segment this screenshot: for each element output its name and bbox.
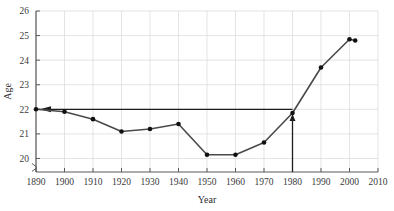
data-point-marker bbox=[62, 109, 67, 114]
x-axis-tick-label-1920: 1920 bbox=[112, 177, 131, 187]
y-axis-tick-label-20: 20 bbox=[20, 154, 30, 164]
x-axis-tick-labels: 1890190019101920193019401950196019701980… bbox=[27, 177, 388, 187]
data-point-marker bbox=[34, 107, 39, 112]
x-axis-tick-label-1950: 1950 bbox=[198, 177, 217, 187]
chart-container: 20212223242526 1890190019101920193019401… bbox=[0, 0, 394, 211]
x-axis-tick-label-1970: 1970 bbox=[255, 177, 274, 187]
y-axis-tick-label-22: 22 bbox=[20, 105, 30, 115]
chart-annotations bbox=[36, 106, 296, 172]
x-axis-tick-label-2000: 2000 bbox=[340, 177, 359, 187]
y-axis-tick-label-21: 21 bbox=[20, 129, 30, 139]
data-point-marker bbox=[233, 152, 238, 157]
line-chart: 20212223242526 1890190019101920193019401… bbox=[0, 0, 394, 211]
y-axis-tick-label-23: 23 bbox=[20, 80, 30, 90]
x-axis-tick-label-1890: 1890 bbox=[27, 177, 46, 187]
data-point-marker bbox=[353, 38, 358, 43]
x-axis-tick-label-2010: 2010 bbox=[369, 177, 388, 187]
y-axis-title: Age bbox=[2, 83, 13, 100]
series-line-median-age bbox=[36, 39, 355, 155]
x-axis-tick-label-1900: 1900 bbox=[55, 177, 74, 187]
y-axis-tick-label-24: 24 bbox=[20, 56, 30, 66]
data-point-marker bbox=[319, 65, 324, 70]
data-point-marker bbox=[119, 129, 124, 134]
x-axis-tick-label-1910: 1910 bbox=[84, 177, 103, 187]
x-axis-tick-label-1980: 1980 bbox=[283, 177, 302, 187]
x-axis-tick-label-1940: 1940 bbox=[169, 177, 188, 187]
y-axis-tick-labels: 20212223242526 bbox=[20, 6, 30, 163]
x-axis-tick-label-1930: 1930 bbox=[141, 177, 160, 187]
chart-axes bbox=[32, 11, 378, 172]
data-point-marker bbox=[91, 117, 96, 122]
x-axis-tick-label-1960: 1960 bbox=[226, 177, 245, 187]
data-point-marker bbox=[290, 111, 295, 116]
x-axis-title: Year bbox=[198, 194, 217, 205]
x-axis-tick-label-1990: 1990 bbox=[312, 177, 331, 187]
series-data-point-markers bbox=[34, 37, 358, 157]
data-point-marker bbox=[205, 152, 210, 157]
y-axis-tick-label-26: 26 bbox=[20, 6, 30, 16]
data-point-marker bbox=[262, 140, 267, 145]
y-axis-tick-label-25: 25 bbox=[20, 31, 30, 41]
data-point-marker bbox=[176, 122, 181, 127]
data-point-marker bbox=[347, 37, 352, 42]
data-point-marker bbox=[148, 127, 153, 132]
vertical-gridlines bbox=[36, 11, 378, 172]
